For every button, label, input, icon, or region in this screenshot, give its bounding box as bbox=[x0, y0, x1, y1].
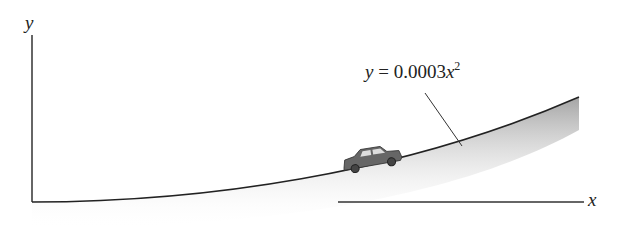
y-axis-label: y bbox=[25, 13, 33, 32]
diagram-canvas bbox=[0, 0, 620, 231]
equation-leader-line bbox=[425, 93, 462, 146]
equation-exponent: 2 bbox=[454, 59, 460, 73]
equation-coef: = 0.0003 bbox=[373, 61, 445, 82]
ground-shading bbox=[32, 97, 579, 228]
x-axis-label: x bbox=[588, 190, 596, 209]
equation-label: y = 0.0003x2 bbox=[365, 60, 460, 81]
